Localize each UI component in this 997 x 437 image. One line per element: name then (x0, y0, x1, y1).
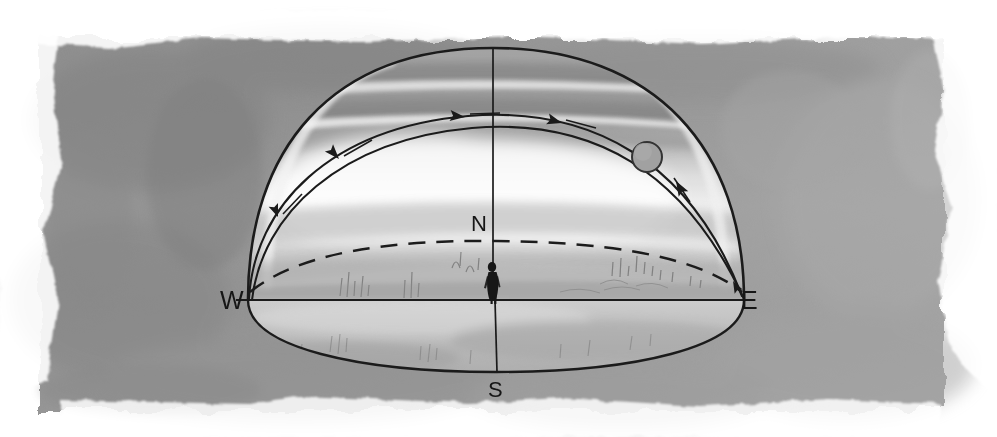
overall-tone-layer (0, 0, 997, 437)
label-east: E (741, 288, 758, 313)
label-south: S (488, 379, 503, 401)
label-west: W (220, 288, 244, 313)
celestial-dome-illustration (0, 0, 997, 437)
diagram-canvas: W E N S (0, 0, 997, 437)
label-north: N (471, 213, 487, 235)
